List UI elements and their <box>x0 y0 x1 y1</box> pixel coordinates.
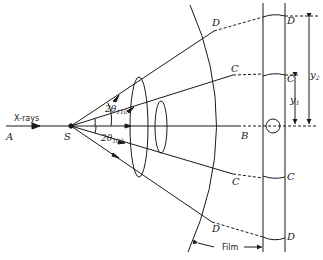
label-B: B <box>241 131 248 141</box>
label-D-film-lower: D <box>287 232 295 242</box>
label-y1: y1 <box>290 95 299 108</box>
ray-100-lower <box>71 126 233 174</box>
ray-110-upper <box>71 31 214 126</box>
label-2theta-100: 2θ100 <box>101 133 124 146</box>
film-line-D-lower <box>263 237 285 240</box>
label-C-film-lower: C <box>287 172 295 182</box>
label-D-arc-upper: D <box>212 18 220 28</box>
film-label: Film <box>222 243 238 253</box>
camera-arc <box>188 5 217 252</box>
label-y2: y2 <box>310 70 319 83</box>
label-S: S <box>64 132 71 142</box>
label-2theta-110: 2θ110 <box>105 104 128 117</box>
film-line-D-upper <box>263 15 285 17</box>
ray-110-lower <box>71 126 212 222</box>
cone-100-ellipse <box>155 101 167 153</box>
film-line-C-upper <box>263 74 285 76</box>
label-C-arc-lower: C <box>232 177 240 187</box>
xrays-label: X-rays <box>14 114 39 124</box>
label-A: A <box>6 132 13 142</box>
label-D-film-upper: D <box>287 16 295 26</box>
label-C-arc-upper: C <box>231 64 239 74</box>
label-D-arc-lower: D <box>212 224 220 234</box>
ray-100-upper <box>71 75 233 126</box>
label-C-film-upper: C <box>287 74 295 84</box>
film-line-C-lower <box>263 176 285 178</box>
cone-110-ellipse <box>130 77 148 177</box>
diffraction-diagram <box>0 0 323 260</box>
